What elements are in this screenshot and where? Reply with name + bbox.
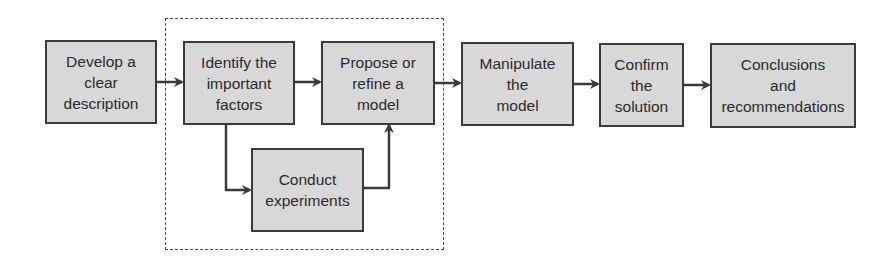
arrow-conduct-to-propose — [363, 125, 389, 188]
node-develop-description: Develop a clear description — [45, 40, 157, 124]
engineering-method-flowchart: Develop a clear description Identify the… — [0, 0, 893, 265]
node-confirm-solution: Confirm the solution — [599, 43, 684, 127]
node-label: Confirm the solution — [614, 54, 668, 117]
node-label: Identify the important factors — [201, 52, 277, 115]
node-label: Conclusions and recommendations — [721, 54, 844, 117]
node-conclusions-recommendations: Conclusions and recommendations — [710, 43, 856, 128]
node-propose-model: Propose or refine a model — [321, 41, 435, 125]
node-label: Propose or refine a model — [340, 52, 416, 115]
node-conduct-experiments: Conduct experiments — [251, 148, 364, 232]
node-label: Manipulate the model — [480, 53, 556, 116]
node-label: Conduct experiments — [265, 169, 349, 211]
node-manipulate-model: Manipulate the model — [461, 42, 574, 126]
node-identify-factors: Identify the important factors — [183, 41, 295, 125]
arrow-identify-to-conduct — [226, 124, 250, 190]
node-label: Develop a clear description — [64, 51, 139, 114]
